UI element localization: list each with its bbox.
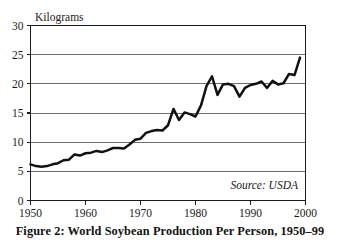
y-tick-label-0: 0 <box>18 195 24 207</box>
x-tick-label-2000: 2000 <box>294 207 317 219</box>
y-axis-title: Kilograms <box>35 11 84 24</box>
soybean-production-line-chart: 051015202530 195019601970198019902000 Ki… <box>0 0 340 248</box>
chart-background <box>0 0 340 248</box>
x-tick-label-1980: 1980 <box>184 207 207 219</box>
x-tick-label-1970: 1970 <box>129 207 152 219</box>
y-tick-label-25: 25 <box>12 49 24 61</box>
x-tick-label-1990: 1990 <box>239 207 262 219</box>
y-tick-label-15: 15 <box>12 107 24 119</box>
source-note: Source: USDA <box>230 179 299 191</box>
x-tick-label-1960: 1960 <box>74 207 97 219</box>
y-tick-label-10: 10 <box>12 136 24 148</box>
y-tick-label-30: 30 <box>12 20 24 32</box>
x-tick-label-1950: 1950 <box>19 207 42 219</box>
figure-caption: Figure 2: World Soybean Production Per P… <box>0 224 340 239</box>
y-tick-label-20: 20 <box>12 78 24 90</box>
y-tick-label-5: 5 <box>18 165 24 177</box>
figure-container: 051015202530 195019601970198019902000 Ki… <box>0 0 340 248</box>
